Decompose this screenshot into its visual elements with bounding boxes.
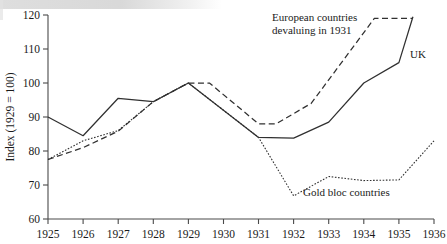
chart-figure: 120 110 100 90 80 70 60 Index (1929 = 10…	[0, 0, 447, 244]
series-line-uk	[48, 17, 413, 138]
x-tick-label-1932: 1932	[282, 228, 305, 240]
line-chart-svg: 120 110 100 90 80 70 60 Index (1929 = 10…	[0, 0, 447, 244]
x-tick-label-1925: 1925	[37, 228, 60, 240]
y-tick-label-120: 120	[23, 9, 41, 21]
annotation-european-line2: devaluing in 1931	[272, 24, 351, 36]
y-tick-label-90: 90	[29, 111, 41, 123]
y-tick-labels: 120 110 100 90 80 70 60	[23, 9, 41, 225]
annotation-gold-bloc: Gold bloc countries	[303, 186, 390, 198]
annotation-uk: UK	[410, 48, 426, 60]
y-tick-marks	[43, 15, 48, 219]
series-line-gold-bloc-countries	[48, 83, 434, 196]
x-tick-label-1930: 1930	[212, 228, 235, 240]
y-tick-label-100: 100	[23, 77, 41, 89]
x-tick-labels: 1925 1926 1927 1928 1929 1930 1931 1932 …	[37, 228, 446, 240]
y-tick-label-70: 70	[29, 179, 41, 191]
y-axis-title: Index (1929 = 100)	[4, 72, 17, 161]
annotation-european-line1: European countries	[272, 11, 357, 23]
x-tick-label-1929: 1929	[177, 228, 200, 240]
x-tick-marks	[48, 219, 434, 224]
y-tick-label-60: 60	[29, 213, 41, 225]
y-tick-label-110: 110	[23, 43, 40, 55]
x-tick-label-1935: 1935	[387, 228, 410, 240]
x-tick-label-1936: 1936	[423, 228, 446, 240]
x-tick-label-1926: 1926	[72, 228, 95, 240]
x-tick-label-1927: 1927	[107, 228, 130, 240]
y-tick-label-80: 80	[29, 145, 41, 157]
x-tick-label-1931: 1931	[247, 228, 270, 240]
x-tick-label-1928: 1928	[142, 228, 165, 240]
x-tick-label-1933: 1933	[317, 228, 340, 240]
x-tick-label-1934: 1934	[352, 228, 375, 240]
